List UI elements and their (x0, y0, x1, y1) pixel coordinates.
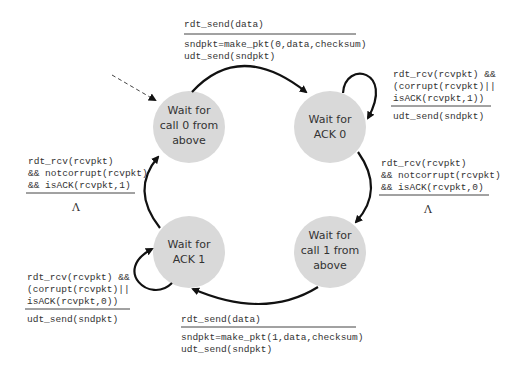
transition-label-s2-s3: rdt_send(data) sndpkt=make_pkt(1,data,ch… (181, 314, 363, 355)
svg-text:above: above (313, 259, 347, 272)
svg-text:(corrupt(rcvpkt)||: (corrupt(rcvpkt)|| (27, 284, 130, 295)
svg-text:Wait for: Wait for (309, 229, 352, 242)
svg-text:&& isACK(rcvpkt,0): && isACK(rcvpkt,0) (381, 182, 484, 193)
arc-s0-to-s1 (192, 66, 306, 92)
svg-text:Wait for: Wait for (168, 238, 211, 251)
state-wait-call-0: Wait for call 0 from above (153, 91, 225, 163)
transition-label-s1-s2: rdt_rcv(rcvpkt) && notcorrupt(rcvpkt) &&… (379, 158, 501, 216)
svg-text:isACK(rcvpkt,1)): isACK(rcvpkt,1)) (393, 93, 484, 104)
svg-text:sndpkt=make_pkt(0,data,checksu: sndpkt=make_pkt(0,data,checksum) (184, 39, 366, 50)
initial-arrow (112, 75, 155, 100)
state-wait-ack-0: Wait for ACK 0 (294, 91, 366, 163)
svg-text:rdt_rcv(rcvpkt): rdt_rcv(rcvpkt) (28, 156, 114, 167)
svg-text:rdt_send(data): rdt_send(data) (181, 314, 261, 325)
transition-label-s3-s0: rdt_rcv(rcvpkt) && notcorrupt(rcvpkt) &&… (26, 156, 148, 214)
arc-s1-to-s2 (356, 152, 371, 222)
svg-text:Wait for: Wait for (168, 104, 211, 117)
svg-text:udt_send(sndpkt): udt_send(sndpkt) (184, 51, 275, 62)
svg-text:isACK(rcvpkt,0)): isACK(rcvpkt,0)) (27, 296, 118, 307)
svg-text:above: above (172, 134, 206, 147)
svg-text:&& isACK(rcvpkt,1): && isACK(rcvpkt,1) (28, 180, 131, 191)
svg-text:rdt_send(data): rdt_send(data) (184, 19, 264, 30)
svg-text:sndpkt=make_pkt(1,data,checksu: sndpkt=make_pkt(1,data,checksum) (181, 332, 363, 343)
svg-text:Λ: Λ (423, 203, 433, 216)
svg-text:udt_send(sndpkt): udt_send(sndpkt) (181, 344, 272, 355)
svg-text:rdt_rcv(rcvpkt) &&: rdt_rcv(rcvpkt) && (27, 272, 130, 283)
svg-text:Λ: Λ (71, 201, 81, 214)
svg-text:Wait for: Wait for (309, 113, 352, 126)
arc-s2-to-s3 (193, 287, 318, 304)
svg-text:&& notcorrupt(rcvpkt): && notcorrupt(rcvpkt) (28, 168, 148, 179)
transition-label-s3-self: rdt_rcv(rcvpkt) && (corrupt(rcvpkt)|| is… (25, 272, 130, 325)
svg-text:call 1 from: call 1 from (301, 244, 360, 257)
svg-text:ACK 0: ACK 0 (314, 128, 347, 141)
svg-text:rdt_rcv(rcvpkt): rdt_rcv(rcvpkt) (381, 158, 467, 169)
transition-label-s0-s1: rdt_send(data) sndpkt=make_pkt(0,data,ch… (184, 19, 366, 62)
svg-text:ACK 1: ACK 1 (173, 253, 206, 266)
svg-text:rdt_rcv(rcvpkt) &&: rdt_rcv(rcvpkt) && (393, 69, 496, 80)
svg-text:&& notcorrupt(rcvpkt): && notcorrupt(rcvpkt) (381, 170, 501, 181)
transition-label-s1-self: rdt_rcv(rcvpkt) && (corrupt(rcvpkt)|| is… (391, 69, 496, 122)
state-wait-call-1: Wait for call 1 from above (294, 216, 366, 288)
svg-text:udt_send(sndpkt): udt_send(sndpkt) (393, 111, 484, 122)
fsm-diagram: Wait for call 0 from above Wait for ACK … (0, 0, 512, 365)
svg-text:call 0 from: call 0 from (160, 119, 219, 132)
svg-text:udt_send(sndpkt): udt_send(sndpkt) (27, 314, 118, 325)
svg-text:(corrupt(rcvpkt)||: (corrupt(rcvpkt)|| (393, 81, 496, 92)
state-wait-ack-1: Wait for ACK 1 (153, 216, 225, 288)
